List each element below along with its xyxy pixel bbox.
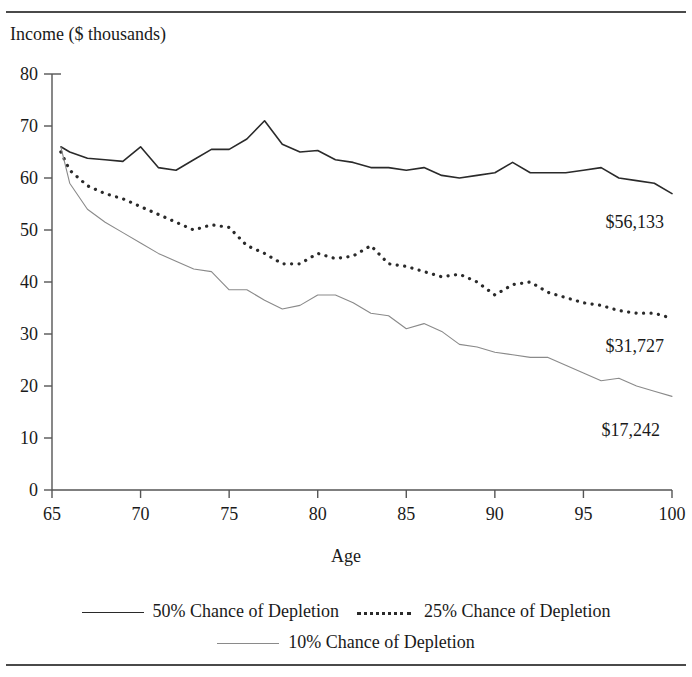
chart-annotations: $56,133$31,727$17,242 [602,212,665,441]
svg-text:0: 0 [29,480,38,500]
chart-series [61,121,672,397]
svg-text:70: 70 [132,504,150,524]
svg-text:$17,242: $17,242 [602,420,661,440]
svg-text:60: 60 [20,168,38,188]
legend-row-primary: 50% Chance of Depletion 25% Chance of De… [0,596,692,627]
legend-swatch-solid-icon [82,606,144,618]
y-tick-labels: 01020304050607080 [20,64,38,500]
bottom-divider [6,664,686,666]
svg-text:90: 90 [486,504,504,524]
svg-text:85: 85 [397,504,415,524]
chart-legend: 50% Chance of Depletion 25% Chance of De… [0,596,692,658]
chart-plot: 01020304050607080 65707580859095100 $56,… [0,0,692,560]
svg-text:80: 80 [20,64,38,84]
legend-entry-25: 25% Chance of Depletion [353,601,610,622]
x-tick-labels: 65707580859095100 [43,504,686,524]
legend-label-50: 50% Chance of Depletion [153,601,339,622]
legend-swatch-dotted-icon [353,606,415,618]
legend-label-10: 10% Chance of Depletion [288,632,474,653]
x-axis-label: Age [0,546,692,567]
svg-text:95: 95 [574,504,592,524]
svg-text:100: 100 [659,504,686,524]
legend-swatch-thin-icon [217,637,279,649]
svg-text:40: 40 [20,272,38,292]
svg-text:65: 65 [43,504,61,524]
svg-text:20: 20 [20,376,38,396]
svg-text:50: 50 [20,220,38,240]
svg-text:$31,727: $31,727 [606,336,665,356]
legend-label-25: 25% Chance of Depletion [424,601,610,622]
svg-text:70: 70 [20,116,38,136]
svg-text:10: 10 [20,428,38,448]
svg-text:30: 30 [20,324,38,344]
legend-entry-50: 50% Chance of Depletion [82,601,339,622]
figure-container: Income ($ thousands) 01020304050607080 6… [0,0,692,677]
svg-text:80: 80 [309,504,327,524]
legend-row-secondary: 10% Chance of Depletion [0,627,692,658]
svg-text:$56,133: $56,133 [606,212,665,232]
chart-axes [44,74,672,498]
svg-text:75: 75 [220,504,238,524]
legend-entry-10: 10% Chance of Depletion [217,632,474,653]
